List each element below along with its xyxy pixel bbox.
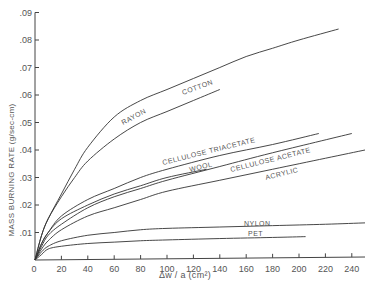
x-tick-label: 0 [31,264,36,274]
axes: .01.02.03.04.05.06.07.08.090204060801001… [19,8,365,275]
series-lines [35,29,365,260]
nylon-line [35,223,365,260]
x-tick-label: 160 [239,264,254,274]
x-tick-label: 20 [56,264,66,274]
y-tick-label: .01 [19,228,32,238]
acrylic-label: ACRYLIC [265,166,299,181]
pet-line [35,237,306,260]
y-tick-label: .03 [19,173,32,183]
y-tick-label: .05 [19,118,32,128]
x-tick-label: 80 [136,264,146,274]
cellulose-triacetate-line [35,134,319,261]
pet-label: PET [248,230,263,237]
mass-burning-rate-chart: .01.02.03.04.05.06.07.08.090204060801001… [0,0,374,288]
y-tick-label: .08 [19,35,32,45]
x-tick-label: 220 [318,264,333,274]
y-tick-label: .06 [19,90,32,100]
x-tick-label: 40 [83,264,93,274]
x-axis-line [35,257,365,260]
cellulose-acetate-label: CELLULOSE ACETATE [230,146,312,173]
x-tick-label: 180 [265,264,280,274]
series-labels: COTTONRAYONCELLULOSE TRIACETATEWOOLCELLU… [120,78,311,237]
x-tick-label: 60 [109,264,119,274]
y-axis-title: MASS BURNING RATE (g/sec-cm) [7,103,16,236]
x-tick-label: 200 [291,264,306,274]
y-tick-label: .07 [19,63,32,73]
x-tick-label: 240 [344,264,359,274]
cotton-label: COTTON [181,78,214,96]
y-tick-label: .09 [19,8,32,18]
y-tick-label: .04 [19,145,32,155]
x-axis-title: Δw / a (cm²) [159,270,211,280]
y-tick-label: .02 [19,200,32,210]
chart-svg: .01.02.03.04.05.06.07.08.090204060801001… [0,0,374,288]
x-tick-label: 140 [212,264,227,274]
nylon-label: NYLON [244,220,271,227]
